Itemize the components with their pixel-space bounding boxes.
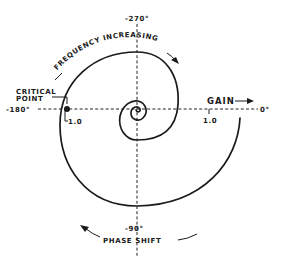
frequency-annotation: FREQUENCY INCREASING [53, 31, 179, 80]
tick-label-left: 1.0 [68, 118, 82, 126]
axis-label-right: 0° [260, 106, 270, 114]
tick-right: 1.0 [203, 109, 217, 125]
phase-shift-label: PHASE SHIFT [103, 237, 161, 245]
frequency-increasing-label: FREQUENCY INCREASING [53, 31, 160, 72]
gain-annotation: GAIN [207, 96, 254, 106]
critical-point-label-line2: POINT [16, 95, 43, 103]
frequency-arrow-icon [171, 57, 179, 64]
axis-label-top: -270° [125, 15, 149, 23]
nyquist-diagram: -270° -90° -180° 0° 1.0 1.0 CRITICAL POI… [0, 0, 285, 267]
critical-point-dot [64, 106, 70, 112]
phase-arrow-icon [80, 225, 89, 232]
gain-label: GAIN [207, 96, 235, 106]
gain-arrow-icon [247, 98, 254, 104]
svg-text:FREQUENCY INCREASING: FREQUENCY INCREASING [53, 31, 160, 72]
axis-label-bottom: -90° [125, 225, 144, 233]
nyquist-spiral [60, 52, 240, 206]
tick-label-right: 1.0 [203, 117, 217, 125]
axis-label-left: -180° [6, 106, 30, 114]
